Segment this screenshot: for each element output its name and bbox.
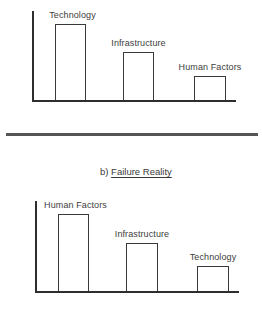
bar-label: Technology	[49, 10, 96, 20]
bar-label: Technology	[190, 252, 237, 262]
x-axis	[35, 291, 239, 293]
bar-technology	[55, 24, 86, 100]
y-axis	[32, 11, 34, 101]
bar-label: Infrastructure	[115, 229, 169, 239]
caption-prefix: b)	[100, 166, 111, 177]
y-axis	[35, 201, 37, 292]
chart-b-caption: b) Failure Reality	[100, 166, 172, 177]
bar-technology	[197, 266, 229, 291]
bar-label: Infrastructure	[111, 38, 165, 48]
x-axis	[32, 100, 236, 102]
bar-label: Human Factors	[44, 200, 107, 210]
bar-human-factors	[194, 76, 226, 100]
bar-label: Human Factors	[179, 62, 242, 72]
bar-infrastructure	[126, 243, 158, 291]
section-divider	[6, 133, 258, 136]
bar-infrastructure	[123, 52, 154, 100]
bar-human-factors	[58, 214, 89, 291]
caption-title: Failure Reality	[111, 166, 172, 177]
